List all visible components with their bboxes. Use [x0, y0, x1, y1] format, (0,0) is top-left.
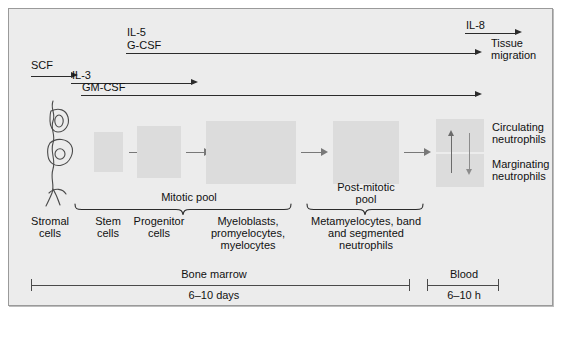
pool-label-mitotic: Mitotic pool	[129, 191, 249, 203]
growth-factor-label-scf: SCF	[31, 59, 53, 71]
stage-box-metamyelocytes	[333, 121, 399, 184]
growth-factor-arrow-il3-head	[191, 79, 198, 85]
stage-arrow-progenitor-to-myeloblasts-shaft	[186, 152, 206, 153]
blood-compartment-label-circulating-line1: Circulating	[492, 121, 544, 133]
stage-box-myeloblasts	[206, 121, 296, 184]
growth-factor-arrow-gmcsf-shaft	[81, 95, 477, 96]
growth-factor-label-il8: IL-8	[466, 19, 485, 31]
stage-arrow-myeloblasts-to-metamyelocytes-head	[321, 148, 328, 156]
stage-label-myeloblasts-line2: promyelocytes,	[193, 227, 303, 239]
stage-label-progenitor-line1: Progenitor	[121, 215, 197, 227]
outcome-label-line1: Tissue	[491, 37, 523, 49]
diagram-panel: IL-5 G-CSF SCF IL-3 GM-CSF IL-8 Tissue m…	[8, 8, 553, 306]
growth-factor-arrow-gcsf-shaft	[126, 53, 477, 54]
stage-box-progenitor-cells	[137, 126, 181, 178]
stage-label-myeloblasts-line3: myelocytes	[193, 239, 303, 251]
stage-label-stromal-line1: Stromal	[19, 215, 81, 227]
exchange-arrow-down-head	[466, 169, 472, 175]
timeline-label-bone-marrow: Bone marrow	[69, 268, 359, 280]
exchange-arrow-up-shaft	[451, 135, 452, 173]
stage-label-progenitor-line2: cells	[121, 227, 197, 239]
growth-factor-arrow-il8-shaft	[465, 33, 517, 34]
stage-label-metamyelocytes-line1: Metamyelocytes, band	[295, 215, 437, 227]
stage-label-metamyelocytes-line3: neutrophils	[295, 239, 437, 251]
pool-brace-post-mitotic	[306, 203, 424, 215]
growth-factor-label-il5: IL-5	[127, 26, 146, 38]
timeline-duration-blood: 6–10 h	[412, 289, 516, 301]
stage-arrow-metamyelocytes-to-blood-head	[424, 148, 431, 156]
exchange-arrow-up-head	[448, 130, 454, 136]
timeline-tick-bone-marrow-end	[409, 279, 410, 291]
blood-compartment-label-circulating-line2: neutrophils	[492, 133, 546, 145]
timeline-span-blood	[427, 285, 499, 286]
growth-factor-label-gmcsf: GM-CSF	[82, 81, 125, 93]
outcome-label-line2: migration	[491, 49, 536, 61]
pool-label-post-mitotic-line1: Post-mitotic	[304, 181, 428, 193]
stromal-cells-illustration	[37, 101, 83, 206]
stage-arrow-myeloblasts-to-metamyelocytes-shaft	[301, 152, 323, 153]
pool-brace-mitotic	[74, 203, 292, 215]
timeline-tick-bone-marrow-start	[31, 279, 32, 291]
growth-factor-arrow-scf-shaft	[31, 76, 73, 77]
growth-factor-arrow-gmcsf-head	[475, 91, 482, 97]
stage-label-myeloblasts-line1: Myeloblasts,	[193, 215, 303, 227]
stage-box-marginating-neutrophils	[436, 154, 484, 187]
growth-factor-arrow-il8-head	[515, 29, 522, 35]
stage-label-metamyelocytes-line2: and segmented	[295, 227, 437, 239]
growth-factor-label-gcsf: G-CSF	[127, 39, 161, 51]
timeline-span-bone-marrow	[31, 285, 410, 286]
stage-arrow-metamyelocytes-to-blood-shaft	[404, 152, 426, 153]
timeline-duration-bone-marrow: 6–10 days	[69, 289, 359, 301]
blood-compartment-label-marginating-line2: neutrophils	[492, 170, 546, 182]
stage-box-circulating-neutrophils	[436, 119, 484, 152]
stage-label-stromal-line2: cells	[19, 227, 81, 239]
growth-factor-arrow-gcsf-head	[475, 49, 482, 55]
figure-root: IL-5 G-CSF SCF IL-3 GM-CSF IL-8 Tissue m…	[0, 0, 571, 341]
blood-compartment-label-marginating-line1: Marginating	[492, 158, 549, 170]
stage-box-stem-cells	[94, 132, 123, 172]
exchange-arrow-down-shaft	[469, 133, 470, 171]
growth-factor-label-il3: IL-3	[72, 69, 91, 81]
